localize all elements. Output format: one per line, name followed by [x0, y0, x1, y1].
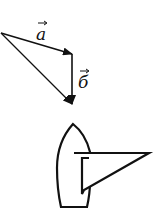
label-b: б — [78, 69, 89, 92]
sailboat — [57, 124, 149, 207]
svg-text:a: a — [36, 24, 46, 44]
vector-diagram: a б — [0, 0, 155, 218]
sail — [74, 153, 149, 194]
label-a: a — [36, 21, 47, 44]
svg-text:б: б — [78, 72, 89, 92]
